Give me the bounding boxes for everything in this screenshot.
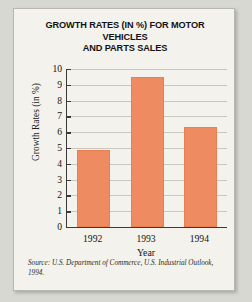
source-note-text: U.S. Department of Commerce, U.S. Indust… [28,259,213,277]
y-axis-tick-labels: 012345678910 [34,55,62,227]
y-tick-label: 2 [36,190,62,200]
gridline [67,69,227,70]
source-note: Source: U.S. Department of Commerce, U.S… [28,259,226,278]
y-tickmark [67,164,71,165]
y-tick-label: 5 [36,143,62,153]
bar-1994 [184,127,217,227]
plot-area-wrapper: Growth Rates (in %) 012345678910 1992199… [14,55,236,245]
y-tick-label: 8 [36,96,62,106]
bar-1992 [77,150,110,227]
y-tickmark [67,116,71,117]
y-tickmark [67,148,71,149]
y-tickmark [67,85,71,86]
chart-title-line-2: AND PARTS SALES [24,43,226,55]
y-tick-label: 4 [36,159,62,169]
y-tick-label: 3 [36,175,62,185]
y-tick-label: 7 [36,111,62,121]
y-tick-label: 1 [36,206,62,216]
y-tickmark [67,69,71,70]
source-note-label: Source: [28,259,50,267]
y-tick-label: 9 [36,80,62,90]
figure-card: GROWTH RATES (IN %) FOR MOTOR VEHICLES A… [13,8,235,291]
y-tickmark [67,211,71,212]
chart-title-line-1: GROWTH RATES (IN %) FOR MOTOR VEHICLES [24,20,226,43]
x-axis-label: Year [66,247,226,258]
y-tickmark [67,195,71,196]
chart-title: GROWTH RATES (IN %) FOR MOTOR VEHICLES A… [24,20,226,55]
plot-area [66,69,227,228]
y-tick-label: 6 [36,127,62,137]
y-tick-label: 0 [36,222,62,232]
y-tick-label: 10 [36,64,62,74]
x-tick-label: 1993 [123,233,169,244]
y-tickmark [67,180,71,181]
x-tick-label: 1992 [70,233,116,244]
x-tick-label: 1994 [176,233,222,244]
y-tickmark [67,132,71,133]
y-tickmark [67,101,71,102]
page-background: GROWTH RATES (IN %) FOR MOTOR VEHICLES A… [0,0,252,302]
bar-1993 [131,77,164,227]
